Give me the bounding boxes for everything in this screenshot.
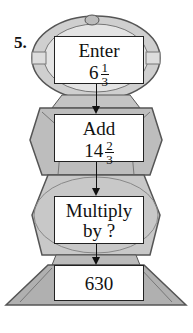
enter-box: Enter 613 — [54, 36, 144, 84]
add-label: Add — [55, 119, 143, 139]
arrowhead-3 — [92, 257, 100, 265]
multiply-operand: by ? — [55, 221, 143, 241]
arrowhead-2 — [92, 188, 100, 196]
enter-fraction: 13 — [101, 61, 110, 88]
arrowhead-1 — [92, 106, 100, 114]
add-whole: 14 — [84, 140, 103, 161]
add-box: Add 1423 — [54, 114, 144, 162]
result-value: 630 — [55, 274, 143, 294]
arrow-1 — [96, 84, 97, 108]
result-box: 630 — [54, 265, 144, 301]
multiply-label: Multiply — [55, 201, 143, 221]
enter-label: Enter — [55, 41, 143, 61]
enter-whole: 6 — [89, 62, 99, 83]
problem-number: 5. — [14, 33, 27, 53]
multiply-box: Multiply by ? — [54, 196, 144, 244]
add-fraction: 23 — [105, 139, 114, 166]
arrow-2 — [96, 162, 97, 190]
